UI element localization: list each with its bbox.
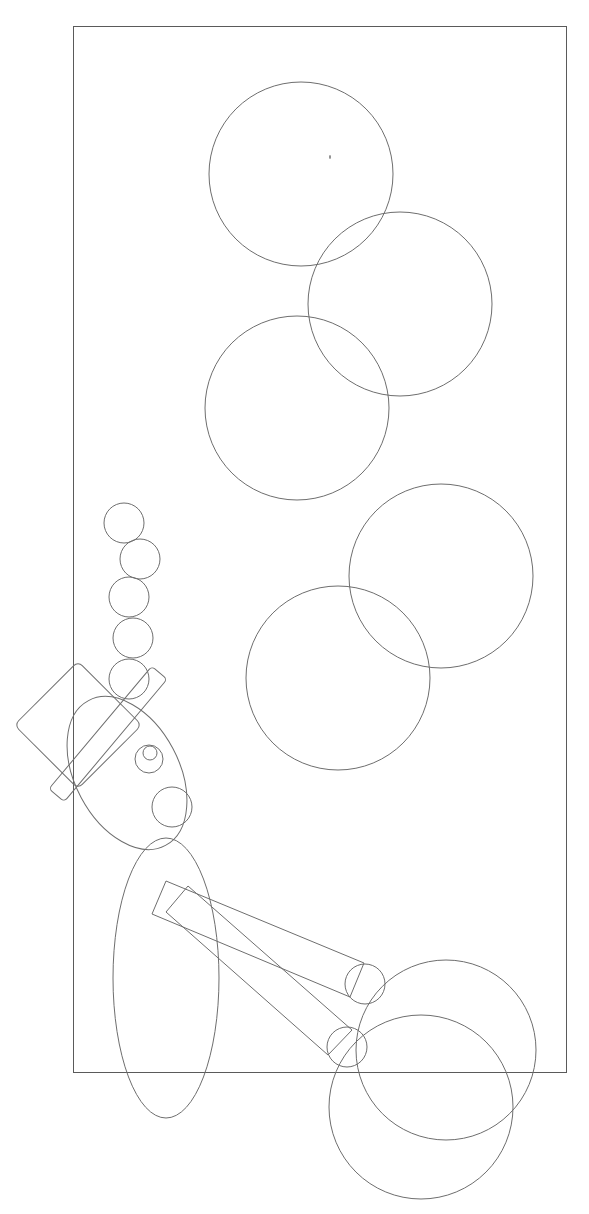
- large-circle-4: [349, 484, 533, 668]
- cheek-circle: [152, 787, 192, 827]
- large-circle-6: [356, 960, 536, 1140]
- outer-frame: [74, 27, 567, 1073]
- chain-circle-3: [109, 577, 149, 617]
- joint-circle-lower: [327, 1027, 367, 1067]
- head-group: [43, 676, 212, 870]
- hat-crown: [14, 661, 141, 788]
- joint-circle-upper: [345, 964, 385, 1004]
- eye-inner: [143, 746, 157, 760]
- chain-circle-1: [104, 503, 144, 543]
- large-circles-group: [205, 82, 536, 1199]
- arm-lower: [166, 886, 352, 1055]
- large-circle-5: [246, 586, 430, 770]
- speck-mark: [329, 155, 331, 159]
- hat-brim: [49, 666, 167, 801]
- body-ellipse: [113, 838, 219, 1118]
- hat-group: [14, 661, 167, 801]
- small-circle-chain: [104, 503, 160, 699]
- diagram-canvas: [0, 0, 589, 1214]
- chain-circle-4: [113, 618, 153, 658]
- large-circle-2: [308, 212, 492, 396]
- large-circle-1: [209, 82, 393, 266]
- chain-circle-2: [120, 539, 160, 579]
- large-circle-3: [205, 316, 389, 500]
- arm-upper: [152, 881, 364, 997]
- head-ellipse: [43, 676, 212, 870]
- arms-group: [152, 881, 385, 1067]
- eye-outer: [135, 745, 163, 773]
